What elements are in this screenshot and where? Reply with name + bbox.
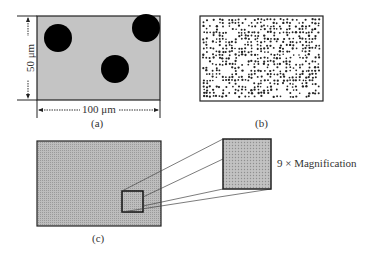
- magnification-label: 9 × Magnification: [277, 157, 357, 169]
- height-dimension-label: 50 μm: [24, 36, 36, 80]
- particle-2: [101, 55, 129, 83]
- particle-3: [132, 14, 160, 42]
- arrow-right-icon: [154, 108, 159, 112]
- panel-b: [200, 16, 323, 101]
- panel-a-label: (a): [91, 117, 103, 129]
- particle-1: [44, 24, 72, 52]
- panel-c: [37, 139, 271, 226]
- panel-c-label: (c): [92, 232, 104, 244]
- magnified-region-box: [223, 139, 271, 189]
- panel-b-label: (b): [255, 117, 268, 129]
- arrow-up-icon: [26, 17, 30, 22]
- diagram-canvas: [0, 0, 370, 255]
- arrow-left-icon: [38, 108, 43, 112]
- arrow-down-icon: [26, 94, 30, 99]
- matrix-rectangle-c: [37, 141, 161, 226]
- width-dimension-label: 100 μm: [80, 103, 118, 115]
